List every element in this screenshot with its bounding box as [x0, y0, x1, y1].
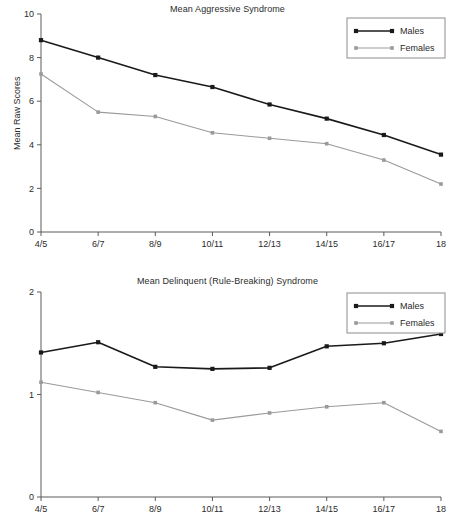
x-tick-label: 18: [436, 239, 446, 249]
data-point-marker: [39, 72, 43, 76]
x-tick-label: 14/15: [315, 239, 338, 249]
y-tick-label: 10: [24, 9, 34, 19]
series-line-males: [41, 334, 441, 369]
x-tick-label: 4/5: [35, 239, 48, 249]
data-point-marker: [267, 366, 271, 370]
legend-marker: [390, 29, 394, 33]
x-tick-label: 18: [436, 504, 446, 514]
x-tick-label: 4/5: [35, 504, 48, 514]
legend-label-males: Males: [400, 301, 425, 311]
x-tick-label: 16/17: [373, 504, 396, 514]
data-point-marker: [439, 153, 443, 157]
y-tick-label: 6: [29, 96, 34, 106]
legend-label-males: Males: [400, 26, 425, 36]
data-point-marker: [211, 131, 215, 135]
data-point-marker: [382, 158, 386, 162]
data-point-marker: [325, 142, 329, 146]
legend-marker: [354, 29, 358, 33]
data-point-marker: [153, 115, 157, 119]
x-tick-label: 8/9: [149, 239, 162, 249]
chart-panel-aggressive: Mean Aggressive Syndrome Mean Raw Scores…: [0, 0, 455, 264]
y-tick-label: 4: [29, 140, 34, 150]
x-tick-label: 6/7: [92, 504, 105, 514]
data-point-marker: [39, 380, 43, 384]
data-point-marker: [153, 365, 157, 369]
x-tick-label: 8/9: [149, 504, 162, 514]
data-point-marker: [210, 85, 214, 89]
y-tick-label: 0: [29, 227, 34, 237]
x-tick-label: 12/13: [258, 504, 281, 514]
data-point-marker: [325, 344, 329, 348]
y-tick-label: 1: [29, 390, 34, 400]
legend: MalesFemales: [347, 293, 445, 333]
data-point-marker: [153, 401, 157, 405]
data-point-marker: [268, 136, 272, 140]
y-tick-label: 2: [29, 287, 34, 297]
data-point-marker: [153, 73, 157, 77]
data-point-marker: [39, 350, 43, 354]
x-tick-label: 14/15: [315, 504, 338, 514]
data-point-marker: [382, 133, 386, 137]
legend-marker: [390, 304, 394, 308]
data-point-marker: [382, 341, 386, 345]
data-point-marker: [325, 117, 329, 121]
chart-panel-delinquent: Mean Delinquent (Rule-Breaking) Syndrome…: [0, 264, 455, 528]
x-tick-label: 16/17: [373, 239, 396, 249]
legend-label-females: Females: [400, 318, 435, 328]
data-point-marker: [39, 38, 43, 42]
data-point-marker: [439, 430, 443, 434]
data-point-marker: [325, 405, 329, 409]
legend-marker: [390, 321, 394, 325]
series-line-females: [41, 74, 441, 184]
figure-two-panel-line-charts: Mean Aggressive Syndrome Mean Raw Scores…: [0, 0, 455, 528]
y-tick-label: 0: [29, 492, 34, 502]
legend-marker: [354, 46, 358, 50]
series-line-females: [41, 382, 441, 431]
y-tick-label: 8: [29, 53, 34, 63]
data-point-marker: [267, 102, 271, 106]
x-tick-label: 12/13: [258, 239, 281, 249]
legend-marker: [354, 304, 358, 308]
x-tick-label: 10/11: [201, 504, 223, 514]
plot-area-aggressive: 02468104/56/78/910/1112/1314/1516/1718Ma…: [0, 0, 455, 264]
data-point-marker: [96, 110, 100, 114]
data-point-marker: [268, 411, 272, 415]
x-tick-label: 6/7: [92, 239, 105, 249]
data-point-marker: [96, 340, 100, 344]
data-point-marker: [96, 56, 100, 60]
legend-marker: [390, 46, 394, 50]
y-tick-label: 2: [29, 184, 34, 194]
legend-marker: [354, 321, 358, 325]
data-point-marker: [439, 182, 443, 186]
legend-label-females: Females: [400, 43, 435, 53]
legend: MalesFemales: [347, 18, 445, 58]
data-point-marker: [96, 391, 100, 395]
data-point-marker: [211, 418, 215, 422]
data-point-marker: [382, 401, 386, 405]
x-tick-label: 10/11: [201, 239, 223, 249]
data-point-marker: [210, 367, 214, 371]
plot-area-delinquent: 0124/56/78/910/1112/1314/1516/1718MalesF…: [0, 264, 455, 528]
